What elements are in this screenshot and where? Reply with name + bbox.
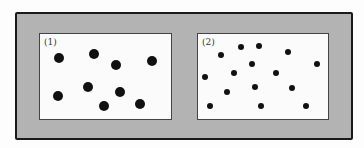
particle-dot-panel-1 [83, 82, 93, 92]
particle-dot-panel-1 [99, 101, 109, 111]
particle-dot-panel-1 [89, 49, 99, 59]
particle-dot-panel-2 [207, 103, 213, 109]
particle-dot-panel-2 [224, 89, 230, 95]
particle-dot-panel-2 [289, 85, 295, 91]
particle-dot-panel-2 [303, 103, 309, 109]
particle-dot-panel-2 [238, 44, 244, 50]
particle-dot-panel-1 [147, 56, 157, 66]
particle-dot-panel-2 [256, 43, 262, 49]
particle-dot-panel-1 [54, 53, 64, 63]
particle-dot-panel-2 [202, 74, 208, 80]
particle-dot-panel-2 [252, 84, 258, 90]
particle-dot-panel-2 [258, 103, 264, 109]
panel-1-label: (1) [44, 37, 57, 47]
particle-dot-panel-2 [231, 70, 237, 76]
particle-dot-panel-1 [53, 91, 63, 101]
particle-dot-panel-2 [285, 49, 291, 55]
particle-dot-panel-2 [218, 52, 224, 58]
particle-dot-panel-2 [314, 61, 320, 67]
particle-dot-panel-1 [135, 99, 145, 109]
panel-2-label: (2) [202, 37, 215, 47]
particle-dot-panel-2 [273, 70, 279, 76]
particle-dot-panel-2 [249, 61, 255, 67]
particle-dot-panel-1 [111, 60, 121, 70]
particle-dot-panel-1 [115, 87, 125, 97]
